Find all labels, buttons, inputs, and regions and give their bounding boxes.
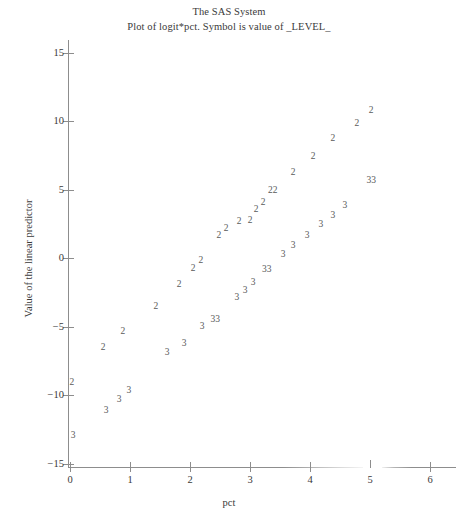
- data-point-2-5: 2: [191, 264, 196, 274]
- x-tick-0: [70, 462, 71, 472]
- data-point-3-2: 3: [117, 396, 122, 406]
- y-tick-1: [63, 121, 74, 122]
- x-axis-line-right: [382, 467, 456, 468]
- x-tick-label-5: 5: [350, 474, 390, 485]
- data-point-3-7: 33: [210, 315, 220, 325]
- x-axis-line-middle: [77, 467, 363, 468]
- x-tick-2: [190, 462, 191, 472]
- data-point-3-16: 3: [330, 211, 335, 221]
- data-point-2-2: 2: [120, 327, 125, 337]
- y-tick-label-5: −10: [24, 389, 64, 400]
- data-point-3-3: 3: [126, 386, 131, 396]
- data-point-2-4: 2: [177, 281, 182, 291]
- data-point-2-10: 2: [248, 216, 253, 226]
- x-tick-6: [430, 462, 431, 472]
- y-tick-2: [63, 190, 74, 191]
- data-point-2-15: 2: [311, 152, 316, 162]
- x-tick-label-4: 4: [290, 474, 330, 485]
- data-point-2-16: 2: [330, 134, 335, 144]
- x-tick-label-1: 1: [110, 474, 150, 485]
- y-tick-label-1: 10: [24, 115, 64, 126]
- x-tick-1: [130, 462, 131, 472]
- x-tick-label-2: 2: [170, 474, 210, 485]
- x-tick-4: [310, 462, 311, 472]
- data-point-2-12: 2: [261, 198, 266, 208]
- data-point-3-5: 3: [182, 340, 187, 350]
- data-point-3-17: 3: [342, 201, 347, 211]
- data-point-3-0: 3: [71, 431, 76, 441]
- data-point-2-17: 2: [354, 119, 359, 129]
- y-tick-3: [63, 258, 74, 259]
- y-tick-6: [63, 464, 74, 465]
- y-tick-label-6: −15: [24, 458, 64, 469]
- data-point-2-3: 2: [153, 303, 158, 313]
- data-point-2-18: 2: [369, 107, 374, 117]
- data-point-3-8: 3: [234, 293, 239, 303]
- x-tick-3: [250, 462, 251, 472]
- y-axis-label: Value of the linear predictor: [23, 179, 34, 339]
- data-point-2-0: 2: [69, 378, 74, 388]
- data-point-3-6: 3: [200, 322, 205, 332]
- data-point-3-15: 3: [318, 220, 323, 230]
- scatter-plot: 151050−5−10−15 0123456 22222222222222222…: [0, 0, 458, 531]
- data-point-3-18: 33: [366, 177, 376, 187]
- data-point-2-7: 2: [216, 231, 221, 241]
- data-point-3-13: 3: [291, 241, 296, 251]
- x-tick-label-3: 3: [230, 474, 270, 485]
- data-point-2-6: 2: [198, 256, 203, 266]
- y-tick-5: [63, 395, 74, 396]
- y-axis-line: [68, 40, 69, 468]
- data-point-2-13: 22: [268, 186, 278, 196]
- data-point-3-12: 3: [281, 251, 286, 261]
- x-tick-5: [370, 460, 371, 468]
- x-tick-label-0: 0: [50, 474, 90, 485]
- y-tick-label-0: 15: [24, 47, 64, 58]
- data-point-3-9: 3: [243, 286, 248, 296]
- data-point-3-1: 3: [104, 407, 109, 417]
- data-point-3-10: 3: [251, 278, 256, 288]
- data-point-2-1: 2: [101, 344, 106, 354]
- data-point-3-11: 33: [262, 266, 272, 276]
- y-tick-0: [63, 53, 74, 54]
- x-tick-label-6: 6: [410, 474, 450, 485]
- data-point-2-8: 2: [224, 224, 229, 234]
- x-axis-label: pct: [0, 497, 458, 508]
- data-point-2-11: 2: [254, 205, 259, 215]
- data-point-2-9: 2: [237, 218, 242, 228]
- data-point-2-14: 2: [291, 168, 296, 178]
- y-tick-4: [63, 327, 74, 328]
- data-point-3-14: 3: [305, 231, 310, 241]
- data-point-3-4: 3: [165, 348, 170, 358]
